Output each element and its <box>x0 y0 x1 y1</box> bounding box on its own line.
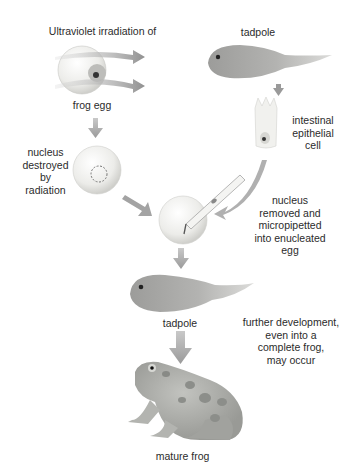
donor-tadpole <box>208 45 332 78</box>
label-intestinal-cell: intestinal epithelial cell <box>283 114 343 152</box>
label-nucleus-destroyed: nucleus destroyed by radiation <box>18 146 73 196</box>
arrow-down-icon <box>173 248 189 269</box>
arrow-down-icon <box>273 84 284 96</box>
mature-frog <box>128 362 243 440</box>
intestinal-epithelial-cell <box>255 97 277 148</box>
arrow-diagonal-icon <box>122 195 152 216</box>
label-mature-frog: mature frog <box>140 450 225 463</box>
arrow-down-icon <box>169 331 192 364</box>
enucleated-egg <box>73 146 121 194</box>
label-donor-tadpole: tadpole <box>228 26 288 39</box>
label-result-tadpole: tadpole <box>150 317 210 330</box>
label-uv-irradiation: Ultraviolet irradiation of <box>40 25 165 38</box>
arrow-down-icon <box>88 118 103 138</box>
cloned-tadpole <box>130 275 254 312</box>
label-nucleus-transfer: nucleus removed and micropipetted into e… <box>240 194 340 257</box>
label-frog-egg: frog egg <box>62 99 122 112</box>
label-further-development: further development, even into a complet… <box>232 316 350 366</box>
